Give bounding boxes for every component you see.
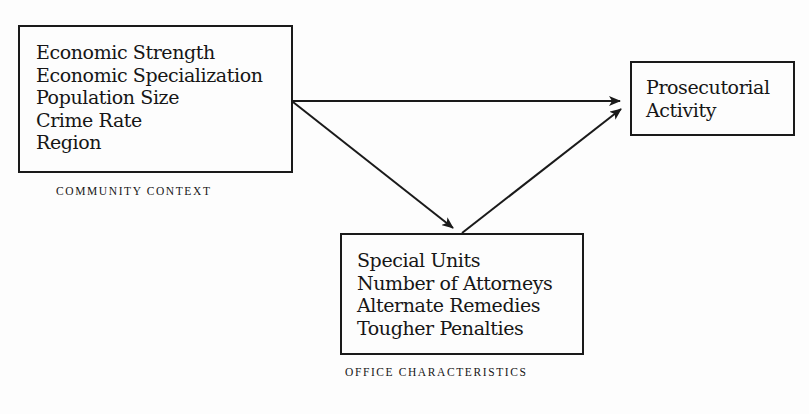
- item-number-of-attorneys: Number of Attorneys: [357, 272, 552, 295]
- item-economic-specialization: Economic Specialization: [36, 64, 263, 87]
- office-characteristics-caption: OFFICE CHARACTERISTICS: [345, 366, 528, 378]
- item-region: Region: [36, 131, 263, 154]
- item-activity: Activity: [646, 99, 770, 122]
- item-crime-rate: Crime Rate: [36, 109, 263, 132]
- item-economic-strength: Economic Strength: [36, 41, 263, 64]
- item-population-size: Population Size: [36, 86, 263, 109]
- item-alternate-remedies: Alternate Remedies: [357, 294, 552, 317]
- prosecutorial-activity-items: Prosecutorial Activity: [646, 76, 770, 121]
- item-prosecutorial: Prosecutorial: [646, 76, 770, 99]
- community-context-items: Economic Strength Economic Specializatio…: [36, 41, 263, 154]
- arrow-office-to-outcome: [462, 109, 621, 233]
- arrow-community-to-office: [293, 102, 453, 228]
- community-context-caption: COMMUNITY CONTEXT: [56, 185, 212, 197]
- item-tougher-penalties: Tougher Penalties: [357, 317, 552, 340]
- diagram-canvas: Economic Strength Economic Specializatio…: [0, 0, 809, 414]
- office-characteristics-items: Special Units Number of Attorneys Altern…: [357, 249, 552, 339]
- item-special-units: Special Units: [357, 249, 552, 272]
